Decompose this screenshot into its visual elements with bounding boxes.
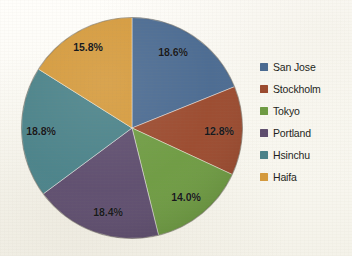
legend-item-stockholm[interactable]: Stockholm: [260, 78, 352, 100]
slice-value-label-stockholm: 12.8%: [204, 125, 233, 137]
legend-label-portland: Portland: [273, 128, 311, 139]
legend-swatch-hsinchu: [260, 151, 268, 159]
legend-label-san-jose: San Jose: [273, 62, 316, 73]
legend-swatch-stockholm: [260, 85, 268, 93]
legend-label-hsinchu: Hsinchu: [273, 150, 310, 161]
legend-item-haifa[interactable]: Haifa: [260, 166, 352, 188]
legend-item-hsinchu[interactable]: Hsinchu: [260, 144, 352, 166]
slice-value-label-haifa: 15.8%: [73, 41, 102, 53]
legend-item-tokyo[interactable]: Tokyo: [260, 100, 352, 122]
legend-swatch-san-jose: [260, 63, 268, 71]
slice-value-label-san-jose: 18.6%: [158, 46, 187, 58]
legend-label-stockholm: Stockholm: [273, 84, 321, 95]
chart-legend: San JoseStockholmTokyoPortlandHsinchuHai…: [260, 56, 352, 188]
slice-value-label-tokyo: 14.0%: [171, 191, 200, 203]
legend-label-haifa: Haifa: [273, 172, 297, 183]
chart-page: 18.6%12.8%14.0%18.4%18.8%15.8% San JoseS…: [0, 0, 352, 256]
slice-value-label-hsinchu: 18.8%: [26, 125, 55, 137]
legend-label-tokyo: Tokyo: [273, 106, 300, 117]
legend-swatch-tokyo: [260, 107, 268, 115]
legend-swatch-portland: [260, 129, 268, 137]
legend-item-portland[interactable]: Portland: [260, 122, 352, 144]
slice-value-label-portland: 18.4%: [93, 206, 122, 218]
legend-item-san-jose[interactable]: San Jose: [260, 56, 352, 78]
legend-swatch-haifa: [260, 173, 268, 181]
